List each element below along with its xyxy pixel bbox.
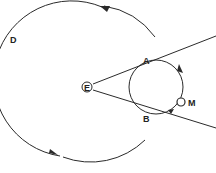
tangent-line-lower bbox=[93, 90, 216, 128]
large-orbit-circle bbox=[0, 1, 155, 162]
orbit-diagram: E M D A B bbox=[0, 0, 216, 173]
body-m-marker bbox=[177, 98, 185, 106]
small-orbit-circle bbox=[129, 60, 183, 114]
label-e: E bbox=[84, 83, 90, 93]
label-m: M bbox=[188, 98, 196, 108]
label-d: D bbox=[10, 35, 17, 45]
label-a: A bbox=[143, 56, 150, 66]
label-b: B bbox=[143, 114, 150, 124]
arrow-top-icon bbox=[100, 6, 110, 12]
